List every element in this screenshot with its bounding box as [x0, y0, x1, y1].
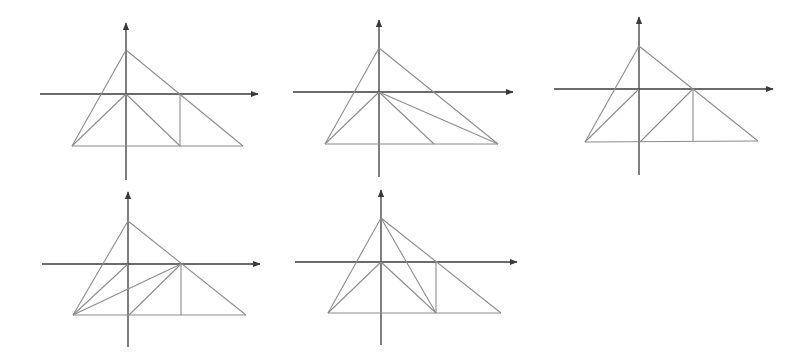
segment-OB [328, 262, 381, 313]
geometry-figures [0, 0, 804, 362]
segment-AB [325, 48, 379, 144]
segment-OB [585, 89, 639, 142]
segment-AB [328, 218, 381, 313]
segment-OC [379, 92, 498, 144]
segment-AB [73, 221, 128, 315]
segment-OB [325, 92, 379, 144]
segment-AC [126, 50, 243, 146]
segment-EG [640, 89, 693, 142]
segment-AC [381, 218, 501, 313]
segment-OF [126, 94, 180, 146]
segment-AB [72, 50, 126, 146]
segment-OF [381, 262, 436, 313]
segment-EB [73, 264, 181, 315]
segment-AC [379, 48, 498, 144]
segment-OB [73, 264, 128, 315]
fig-3 [554, 17, 773, 175]
fig-1 [40, 23, 258, 180]
segment-AC [128, 221, 246, 315]
segment-AF [381, 218, 436, 313]
segment-OB [72, 94, 126, 146]
diagram-canvas [0, 0, 804, 362]
segment-BC [585, 141, 758, 142]
segment-AB [585, 46, 639, 142]
segment-EG [129, 264, 181, 315]
segment-OD [379, 92, 434, 144]
fig-4 [42, 192, 260, 347]
fig-2 [293, 20, 513, 177]
fig-5 [295, 190, 517, 345]
segment-AC [639, 46, 758, 141]
